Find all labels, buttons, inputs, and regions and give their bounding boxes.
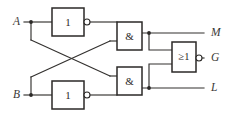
logic-circuit-diagram: 1 1 & & ≥1 — [0, 0, 235, 117]
wire-a-crossover — [31, 40, 110, 76]
gate-not-top[interactable]: 1 — [52, 8, 90, 36]
gate-nor-label: ≥1 — [178, 51, 189, 62]
circuit-canvas: 1 1 & & ≥1 — [0, 0, 235, 117]
output-label-m: M — [210, 26, 222, 38]
output-label-g: G — [211, 51, 220, 63]
wire-m-tap-to-nor-input-1 — [149, 33, 172, 50]
junction-input-a — [29, 20, 33, 24]
gate-and-bottom[interactable]: & — [117, 67, 142, 95]
gate-and-top-label: & — [125, 30, 134, 42]
gate-not-top-inversion-bubble — [84, 19, 90, 25]
gate-and-bottom-label: & — [125, 75, 134, 87]
gate-not-top-label: 1 — [65, 16, 71, 28]
gate-nor[interactable]: ≥1 — [172, 42, 202, 72]
gate-and-top[interactable]: & — [117, 22, 142, 50]
junction-output-m — [147, 31, 151, 35]
wire-l-tap-to-nor-input-2 — [149, 64, 172, 88]
gate-nor-inversion-bubble — [196, 55, 202, 61]
input-label-a: A — [12, 15, 21, 27]
gate-not-bottom[interactable]: 1 — [52, 81, 90, 109]
gate-not-bottom-inversion-bubble — [84, 92, 90, 98]
junction-output-l — [147, 86, 151, 90]
wire-b-crossover — [31, 41, 110, 77]
junction-input-b — [29, 93, 33, 97]
gate-not-bottom-label: 1 — [65, 89, 71, 101]
input-label-b: B — [13, 88, 20, 100]
output-label-l: L — [210, 81, 217, 93]
